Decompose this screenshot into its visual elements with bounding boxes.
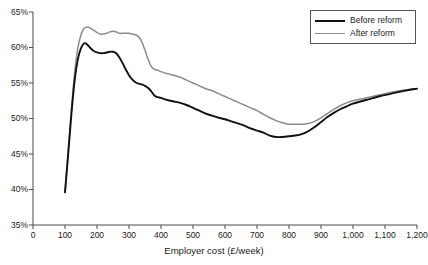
x-axis-ticks	[33, 225, 417, 229]
legend-swatch-line-icon	[315, 33, 345, 34]
x-axis-title: Employer cost (£/week)	[0, 245, 428, 256]
legend-item-label: After reform	[350, 29, 395, 38]
y-axis-tick-label: 65%	[0, 8, 28, 17]
y-axis-ticks	[29, 12, 33, 225]
x-axis-tick-label: 1,200	[397, 231, 428, 240]
chart-legend: Before reform After reform	[310, 10, 416, 44]
legend-item-label: Before reform	[350, 16, 402, 25]
y-axis-tick-label: 40%	[0, 185, 28, 194]
series-line-before-reform	[65, 43, 417, 192]
chart-figure: 35%40%45%50%55%60%65% 010020030040050060…	[0, 0, 428, 265]
y-axis-tick-label: 60%	[0, 43, 28, 52]
legend-item-before-reform[interactable]: Before reform	[315, 14, 411, 27]
series-line-after-reform	[65, 27, 417, 192]
legend-item-after-reform[interactable]: After reform	[315, 27, 411, 40]
y-axis-tick-label: 55%	[0, 79, 28, 88]
clipped-caption-text	[4, 260, 234, 265]
legend-swatch-line-icon	[315, 20, 345, 22]
y-axis-tick-label: 45%	[0, 150, 28, 159]
y-axis-tick-label: 50%	[0, 114, 28, 123]
y-axis-tick-label: 35%	[0, 221, 28, 230]
chart-series-lines	[65, 27, 417, 192]
